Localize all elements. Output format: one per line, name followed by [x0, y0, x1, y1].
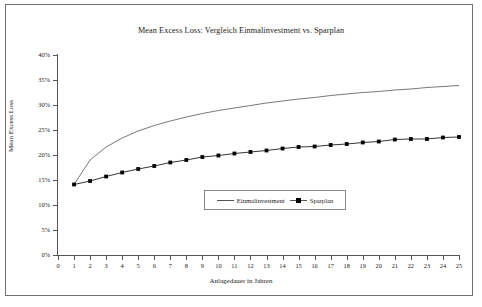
- x-tick-label: 25: [451, 262, 467, 269]
- x-tick-label: 20: [371, 262, 387, 269]
- x-tick-label: 14: [275, 262, 291, 269]
- y-tick-mark: [53, 130, 57, 131]
- x-tick-mark: [106, 256, 107, 260]
- chart-figure: Mean Excess Loss: Vergleich Einmalinvest…: [0, 0, 482, 307]
- x-tick-label: 16: [307, 262, 323, 269]
- y-tick-label: 35%: [16, 77, 50, 83]
- y-tick-label: 0%: [16, 252, 50, 258]
- x-tick-mark: [58, 256, 59, 260]
- figure-border: [5, 4, 473, 296]
- x-tick-mark: [459, 256, 460, 260]
- x-tick-label: 5: [130, 262, 146, 269]
- x-tick-label: 19: [355, 262, 371, 269]
- x-tick-mark: [427, 256, 428, 260]
- x-tick-mark: [315, 256, 316, 260]
- x-tick-mark: [234, 256, 235, 260]
- x-tick-mark: [299, 256, 300, 260]
- x-axis-line: [57, 255, 460, 256]
- x-tick-label: 4: [114, 262, 130, 269]
- x-tick-mark: [411, 256, 412, 260]
- y-tick-label: 20%: [16, 152, 50, 158]
- y-tick-label: 5%: [16, 227, 50, 233]
- x-tick-mark: [267, 256, 268, 260]
- x-tick-label: 3: [98, 262, 114, 269]
- x-tick-label: 17: [323, 262, 339, 269]
- x-tick-mark: [202, 256, 203, 260]
- x-tick-label: 21: [387, 262, 403, 269]
- x-tick-label: 10: [210, 262, 226, 269]
- legend-swatch-line-marker: [290, 200, 307, 201]
- x-tick-mark: [347, 256, 348, 260]
- y-axis-line: [57, 54, 58, 256]
- legend-label-einmalinvestment: Einmalinvestment: [237, 197, 285, 204]
- x-tick-label: 11: [226, 262, 242, 269]
- x-tick-label: 6: [146, 262, 162, 269]
- x-tick-label: 8: [178, 262, 194, 269]
- x-tick-label: 0: [50, 262, 66, 269]
- chart-title: Mean Excess Loss: Vergleich Einmalinvest…: [0, 26, 482, 35]
- x-tick-mark: [186, 256, 187, 260]
- y-tick-mark: [53, 230, 57, 231]
- y-tick-mark: [53, 255, 57, 256]
- y-tick-mark: [53, 205, 57, 206]
- y-tick-label: 25%: [16, 127, 50, 133]
- x-tick-mark: [154, 256, 155, 260]
- y-tick-label: 40%: [16, 52, 50, 58]
- y-tick-label: 10%: [16, 202, 50, 208]
- y-tick-mark: [53, 180, 57, 181]
- x-tick-label: 9: [194, 262, 210, 269]
- legend-label-sparplan: Sparplan: [310, 197, 333, 204]
- x-tick-label: 2: [82, 262, 98, 269]
- x-tick-label: 18: [339, 262, 355, 269]
- x-tick-mark: [90, 256, 91, 260]
- y-axis-label: Mean Excess Loss: [7, 71, 15, 181]
- x-tick-label: 23: [419, 262, 435, 269]
- x-tick-label: 12: [242, 262, 258, 269]
- x-tick-mark: [138, 256, 139, 260]
- x-tick-mark: [170, 256, 171, 260]
- legend-swatch-line: [217, 200, 234, 201]
- x-tick-label: 7: [162, 262, 178, 269]
- x-axis-label: Anlagedauer in Jahren: [0, 277, 482, 285]
- y-tick-mark: [53, 55, 57, 56]
- x-tick-label: 15: [291, 262, 307, 269]
- x-tick-mark: [283, 256, 284, 260]
- y-tick-mark: [53, 105, 57, 106]
- x-tick-mark: [443, 256, 444, 260]
- y-tick-mark: [53, 80, 57, 81]
- y-tick-label: 15%: [16, 177, 50, 183]
- x-tick-label: 22: [403, 262, 419, 269]
- x-tick-mark: [250, 256, 251, 260]
- y-tick-label: 30%: [16, 102, 50, 108]
- x-tick-label: 24: [435, 262, 451, 269]
- x-tick-mark: [331, 256, 332, 260]
- y-tick-mark: [53, 155, 57, 156]
- x-tick-label: 1: [66, 262, 82, 269]
- legend-item-sparplan: Sparplan: [290, 197, 333, 204]
- x-tick-mark: [395, 256, 396, 260]
- chart-legend: Einmalinvestment Sparplan: [204, 190, 346, 210]
- x-tick-mark: [122, 256, 123, 260]
- x-tick-mark: [379, 256, 380, 260]
- x-tick-mark: [218, 256, 219, 260]
- legend-item-einmalinvestment: Einmalinvestment: [217, 197, 285, 204]
- x-tick-mark: [363, 256, 364, 260]
- x-tick-label: 13: [259, 262, 275, 269]
- x-tick-mark: [74, 256, 75, 260]
